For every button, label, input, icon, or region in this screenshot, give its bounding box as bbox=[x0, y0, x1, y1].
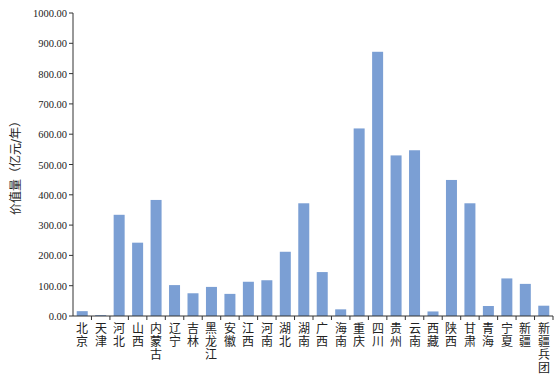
x-tick-label: 西 bbox=[316, 335, 328, 349]
x-tick-label: 徽 bbox=[224, 334, 236, 349]
y-tick-label: 0.00 bbox=[49, 311, 67, 322]
x-tick-label: 蒙 bbox=[150, 335, 162, 349]
bar bbox=[428, 311, 439, 316]
bar bbox=[243, 282, 254, 316]
x-tick-label: 安 bbox=[224, 321, 236, 336]
x-tick-label: 江 bbox=[205, 348, 217, 362]
x-tick-label: 疆 bbox=[519, 335, 531, 349]
x-tick-label: 西 bbox=[427, 322, 439, 336]
x-tick-label: 海 bbox=[335, 321, 347, 336]
bar bbox=[77, 311, 88, 316]
bar bbox=[224, 294, 235, 316]
x-tick-label: 北 bbox=[76, 322, 88, 336]
y-tick-label: 700.00 bbox=[38, 99, 67, 110]
x-tick-label: 广 bbox=[316, 322, 328, 336]
x-tick-label: 吉 bbox=[187, 322, 199, 336]
x-tick-label: 江 bbox=[242, 322, 254, 336]
x-tick-label: 贵 bbox=[390, 322, 402, 336]
bar bbox=[483, 306, 494, 316]
x-tick-label: 林 bbox=[187, 335, 199, 349]
x-tick-label: 云 bbox=[409, 322, 421, 336]
x-tick-label: 河 bbox=[261, 322, 273, 336]
y-tick-label: 300.00 bbox=[38, 220, 67, 231]
x-tick-label: 湖 bbox=[298, 321, 310, 336]
bar bbox=[446, 180, 457, 316]
x-tick-label: 州 bbox=[390, 335, 402, 349]
y-tick-label: 600.00 bbox=[38, 129, 67, 140]
x-tick-label: 兵 bbox=[538, 348, 550, 362]
bar bbox=[169, 285, 180, 316]
bar bbox=[206, 287, 217, 316]
x-tick-label: 夏 bbox=[501, 335, 513, 349]
bar bbox=[354, 128, 365, 316]
bar-chart: 0.00100.00200.00300.00400.00500.00600.00… bbox=[0, 0, 560, 382]
x-tick-label: 四 bbox=[372, 322, 384, 336]
x-tick-label: 古 bbox=[150, 347, 162, 362]
x-tick-label: 团 bbox=[538, 361, 550, 375]
x-tick-label: 重 bbox=[353, 322, 365, 336]
x-tick-label: 西 bbox=[445, 335, 457, 349]
x-axis: 北京天津河北山西内蒙古辽宁吉林黑龙江安徽江西河南湖北湖南广西海南重庆四川贵州云南… bbox=[73, 316, 553, 375]
bar bbox=[114, 215, 125, 316]
bar bbox=[335, 309, 346, 316]
x-tick-label: 湖 bbox=[279, 321, 291, 336]
bar bbox=[464, 203, 475, 316]
bar bbox=[261, 280, 272, 316]
x-tick-label: 宁 bbox=[169, 334, 181, 349]
x-tick-label: 新 bbox=[538, 321, 550, 336]
y-axis-label: 价值量（亿元/年） bbox=[8, 115, 23, 215]
bar bbox=[151, 200, 162, 316]
x-tick-label: 肃 bbox=[464, 335, 476, 349]
x-tick-label: 疆 bbox=[538, 335, 550, 349]
x-tick-label: 辽 bbox=[169, 322, 181, 336]
bar bbox=[298, 203, 309, 316]
x-tick-label: 津 bbox=[95, 335, 107, 349]
bar bbox=[280, 252, 291, 316]
y-tick-label: 900.00 bbox=[38, 38, 67, 49]
x-tick-label: 内 bbox=[150, 322, 162, 336]
x-tick-label: 陕 bbox=[445, 321, 457, 336]
x-tick-label: 海 bbox=[482, 334, 494, 349]
x-tick-label: 黑 bbox=[205, 322, 217, 336]
x-tick-label: 天 bbox=[95, 322, 107, 336]
x-tick-label: 庆 bbox=[353, 335, 365, 349]
y-tick-label: 200.00 bbox=[38, 250, 67, 261]
y-tick-label: 500.00 bbox=[38, 160, 67, 171]
y-axis: 0.00100.00200.00300.00400.00500.00600.00… bbox=[33, 8, 73, 322]
x-tick-label: 南 bbox=[298, 334, 310, 349]
x-tick-label: 西 bbox=[132, 335, 144, 349]
bar bbox=[188, 293, 199, 316]
x-tick-label: 青 bbox=[482, 322, 494, 336]
x-tick-label: 宁 bbox=[501, 321, 513, 336]
x-tick-label: 新 bbox=[519, 321, 531, 336]
x-tick-label: 京 bbox=[76, 335, 88, 349]
x-tick-label: 河 bbox=[113, 322, 125, 336]
bar bbox=[520, 284, 531, 316]
bar bbox=[391, 155, 402, 316]
bar bbox=[132, 243, 143, 316]
bar bbox=[409, 150, 420, 316]
bar bbox=[317, 272, 328, 316]
x-tick-label: 南 bbox=[335, 334, 347, 349]
y-tick-label: 1000.00 bbox=[33, 8, 67, 19]
y-tick-label: 400.00 bbox=[38, 190, 67, 201]
bar bbox=[372, 52, 383, 316]
x-tick-label: 北 bbox=[279, 335, 291, 349]
y-tick-label: 100.00 bbox=[38, 281, 67, 292]
x-tick-label: 南 bbox=[409, 334, 421, 349]
x-tick-label: 北 bbox=[113, 335, 125, 349]
y-tick-label: 800.00 bbox=[38, 69, 67, 80]
x-tick-label: 川 bbox=[372, 335, 384, 349]
x-tick-label: 龙 bbox=[205, 335, 217, 349]
x-tick-label: 西 bbox=[242, 335, 254, 349]
bars bbox=[77, 52, 550, 316]
bar bbox=[501, 278, 512, 316]
x-tick-label: 甘 bbox=[464, 322, 476, 336]
x-tick-label: 山 bbox=[132, 322, 144, 336]
x-tick-label: 藏 bbox=[427, 335, 439, 349]
bar bbox=[538, 306, 549, 316]
x-tick-label: 南 bbox=[261, 334, 273, 349]
